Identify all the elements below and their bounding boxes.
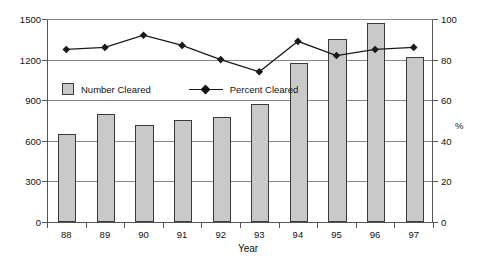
y-axis-right-title: % (455, 120, 463, 131)
y-axis-right-tick-label: 60 (441, 95, 452, 106)
x-axis-tick (86, 223, 87, 228)
y-axis-right-labels: 020406080100 (441, 19, 491, 222)
x-axis-tick-label-93: 93 (254, 229, 265, 240)
x-axis-tick-label-88: 88 (61, 229, 72, 240)
legend-item-percent-cleared: Percent Cleared (189, 83, 299, 95)
line-marker-90 (140, 31, 148, 39)
x-axis-tick (240, 223, 241, 228)
legend-bar-label: Number Cleared (81, 84, 151, 95)
chart-container: 030060090012001500 020406080100 % 888990… (0, 0, 496, 265)
y-axis-right-tick-label: 100 (441, 14, 457, 25)
x-axis-tick (124, 223, 125, 228)
x-axis-tick-label-92: 92 (215, 229, 226, 240)
line-path (66, 35, 413, 72)
x-axis-tick (394, 223, 395, 228)
line-marker-88 (62, 46, 70, 54)
y-axis-left-tick-label: 900 (25, 95, 41, 106)
line-marker-92 (217, 56, 225, 64)
x-axis-tick (317, 223, 318, 228)
x-axis-tick-label-90: 90 (138, 229, 149, 240)
chart-legend: Number Cleared Percent Cleared (62, 83, 298, 95)
x-axis-tick (47, 223, 48, 228)
y-axis-left-tick-label: 300 (25, 176, 41, 187)
legend-item-number-cleared: Number Cleared (62, 83, 151, 95)
line-marker-96 (371, 46, 379, 54)
x-axis-tick-label-89: 89 (100, 229, 111, 240)
x-axis-line (47, 222, 433, 223)
x-axis-tick (163, 223, 164, 228)
line-marker-89 (101, 44, 109, 52)
x-axis-tick (356, 223, 357, 228)
y-axis-right-tick-label: 20 (441, 176, 452, 187)
line-marker-95 (333, 52, 341, 60)
x-axis-tick-label-91: 91 (177, 229, 188, 240)
y-axis-left-tick-label: 1200 (20, 54, 41, 65)
line-marker-97 (410, 44, 418, 52)
legend-line-marker-icon (189, 83, 223, 95)
y-axis-left-tick-label: 1500 (20, 14, 41, 25)
x-axis-tick-label-94: 94 (293, 229, 304, 240)
line-marker-91 (178, 42, 186, 50)
y-axis-right-tick-label: 0 (441, 217, 446, 228)
x-axis-tick (433, 223, 434, 228)
y-axis-right-tick-label: 80 (441, 54, 452, 65)
y-axis-left-labels: 030060090012001500 (0, 19, 41, 222)
y-axis-left-tick-label: 0 (36, 217, 41, 228)
x-axis-tick-label-97: 97 (408, 229, 419, 240)
x-axis-title: Year (0, 243, 496, 254)
legend-bar-swatch-icon (62, 83, 74, 95)
legend-line-label: Percent Cleared (230, 84, 299, 95)
y-axis-left-tick-label: 600 (25, 135, 41, 146)
x-axis-tick-label-95: 95 (331, 229, 342, 240)
x-axis-tick (279, 223, 280, 228)
x-axis-tick-label-96: 96 (370, 229, 381, 240)
y-axis-right-tick-label: 40 (441, 135, 452, 146)
x-axis-tick (201, 223, 202, 228)
line-series (47, 19, 433, 222)
